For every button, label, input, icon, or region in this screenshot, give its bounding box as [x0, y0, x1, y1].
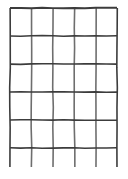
grid-line-vertical [10, 8, 11, 167]
diagram-canvas [0, 0, 128, 179]
figure-background [0, 0, 128, 179]
grid-line-vertical [31, 8, 32, 167]
grid-line-horizontal [10, 148, 117, 149]
grid-line-vertical [53, 8, 54, 167]
grid-line-horizontal [10, 36, 117, 37]
grid-line-horizontal [10, 8, 117, 9]
grid-figure [0, 0, 128, 179]
grid-line-horizontal [10, 120, 117, 121]
grid-line-vertical [74, 8, 75, 167]
grid-line-horizontal [10, 64, 117, 65]
grid-line-vertical [117, 8, 118, 167]
